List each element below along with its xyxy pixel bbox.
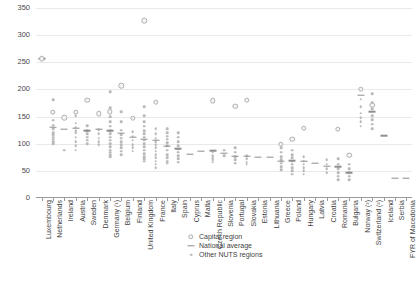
x-axis-tick-label: Estonia	[261, 200, 268, 223]
chart-legend: Capital region National average Other NU…	[186, 232, 262, 259]
capital-region-point	[278, 142, 283, 147]
other-region-point	[245, 158, 248, 161]
other-region-point	[166, 141, 169, 144]
other-regions-icon	[186, 250, 196, 259]
legend-label-national: National average	[199, 241, 252, 250]
national-average-point	[232, 156, 239, 157]
other-region-point	[325, 167, 328, 170]
other-region-point	[177, 154, 180, 157]
other-region-point	[166, 162, 169, 165]
other-region-point	[132, 139, 135, 142]
other-region-point	[120, 140, 123, 143]
other-region-point	[63, 149, 66, 152]
x-axis-tick-label: Portugal	[238, 200, 245, 226]
gridline	[36, 35, 412, 36]
x-axis-tick-label: Luxembourg	[45, 200, 52, 239]
other-region-point	[359, 112, 362, 115]
other-region-point	[109, 125, 112, 128]
other-region-point	[154, 166, 157, 169]
other-region-point	[109, 133, 112, 136]
capital-region-point	[107, 109, 112, 114]
other-region-point	[143, 129, 146, 132]
gridline	[36, 171, 412, 172]
other-region-point	[109, 139, 112, 142]
national-average-point	[164, 145, 171, 146]
other-region-point	[302, 166, 305, 169]
capital-region-point	[119, 83, 124, 88]
national-average-point	[369, 111, 376, 112]
other-region-point	[325, 172, 328, 175]
y-axis-tick-label: 250	[2, 58, 30, 66]
other-region-point	[109, 155, 112, 158]
national-average-point	[334, 166, 341, 167]
other-region-point	[371, 123, 374, 126]
legend-label-other: Other NUTS regions	[199, 250, 262, 259]
other-region-point	[109, 115, 112, 118]
capital-region-point	[244, 98, 249, 103]
other-region-point	[291, 153, 294, 156]
other-region-point	[132, 150, 135, 153]
other-region-point	[177, 161, 180, 164]
x-axis-tick-label: Lithuania	[273, 200, 280, 228]
other-region-point	[154, 160, 157, 163]
legend-item-national: National average	[186, 241, 262, 250]
other-region-point	[177, 151, 180, 154]
other-region-point	[75, 132, 78, 135]
national-average-point	[380, 135, 387, 136]
gridline	[36, 8, 412, 9]
other-region-point	[234, 151, 237, 154]
other-region-point	[280, 151, 283, 154]
other-region-point	[234, 159, 237, 162]
other-region-point	[280, 155, 283, 158]
capital-region-point	[50, 110, 55, 115]
other-region-point	[359, 125, 362, 128]
national-average-point	[255, 157, 262, 158]
other-region-point	[154, 127, 157, 130]
other-region-point	[120, 147, 123, 150]
other-region-point	[75, 140, 78, 143]
national-average-point	[346, 172, 353, 173]
other-region-point	[52, 142, 55, 145]
national-average-point	[129, 137, 136, 138]
national-average-point	[61, 128, 68, 129]
legend-item-other: Other NUTS regions	[186, 250, 262, 259]
capital-region-point	[73, 110, 78, 115]
other-region-point	[109, 142, 112, 145]
other-region-point	[143, 121, 146, 124]
other-region-point	[97, 144, 100, 147]
x-axis-tick-label: Bulgaria	[352, 200, 359, 226]
national-average-point	[391, 177, 398, 178]
other-region-point	[177, 140, 180, 143]
x-axis-tick-label: Hungary	[307, 200, 314, 226]
national-average-point	[323, 165, 330, 166]
gridline	[36, 89, 412, 90]
national-average-point	[72, 127, 79, 128]
capital-region-point	[142, 18, 147, 23]
national-average-point	[312, 163, 319, 164]
other-region-point	[86, 125, 89, 128]
capital-region-point	[358, 87, 363, 92]
other-region-point	[120, 144, 123, 147]
other-region-point	[280, 165, 283, 168]
x-axis-tick-label: Serbia	[398, 200, 405, 220]
other-region-point	[371, 114, 374, 117]
other-region-point	[109, 121, 112, 124]
other-region-point	[154, 153, 157, 156]
capital-region-point	[153, 100, 158, 105]
other-region-point	[143, 160, 146, 163]
y-axis-tick-label: 150	[2, 113, 30, 121]
capital-region-point	[301, 125, 306, 130]
other-region-point	[143, 146, 146, 149]
other-region-point	[223, 154, 226, 157]
other-region-point	[371, 92, 374, 95]
other-region-point	[348, 167, 351, 170]
x-axis-tick-label: France	[159, 200, 166, 222]
other-region-point	[302, 173, 305, 176]
x-axis-tick-label: Finland	[136, 200, 143, 223]
plot-area: 050100150200250300350	[36, 8, 412, 198]
other-region-point	[97, 140, 100, 143]
x-axis-tick-label: Croatia	[330, 200, 337, 223]
other-region-point	[154, 140, 157, 143]
other-region-point	[234, 162, 237, 165]
legend-label-capital: Capital region	[199, 232, 242, 241]
